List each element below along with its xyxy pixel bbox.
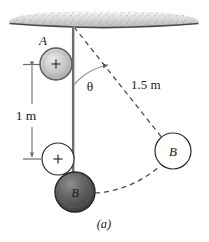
label-length-diagonal: 1.5 m [131, 77, 161, 92]
sphere-b-displaced: B [155, 133, 191, 169]
sphere-b-dark: B [55, 172, 95, 212]
dashed-swing-arc [95, 167, 159, 193]
charge-circle-lower [42, 143, 74, 175]
ceiling-support [9, 11, 199, 28]
physics-figure-pendulum: 1 m A B B θ 1.5 m [0, 0, 209, 242]
label-length-vertical: 1 m [16, 108, 37, 123]
dimension-1m: 1 m [16, 65, 41, 160]
figure-canvas: 1 m A B B θ 1.5 m [0, 0, 209, 242]
label-sphere-a: A [38, 33, 47, 48]
label-angle-theta: θ [87, 79, 93, 94]
label-sphere-b-displaced: B [169, 144, 177, 159]
label-sphere-b-dark: B [71, 186, 79, 200]
swing-path-dashed [95, 167, 159, 193]
figure-caption: (a) [97, 217, 112, 231]
sphere-a: A [38, 33, 72, 80]
